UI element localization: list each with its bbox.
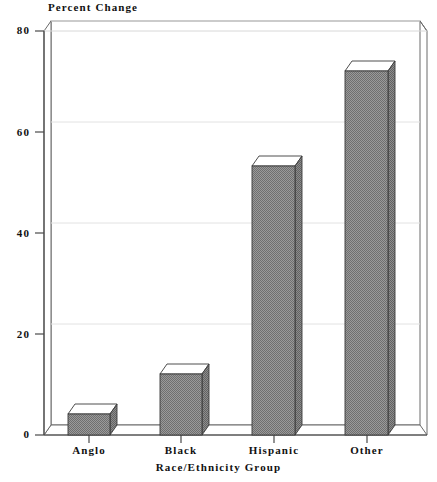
x-axis (44, 435, 427, 443)
bar-hispanic (252, 156, 302, 435)
bar-anglo (68, 404, 117, 435)
plot-area (0, 0, 437, 482)
bar-other (345, 61, 395, 435)
bar-black (160, 364, 209, 435)
y-axis (35, 31, 44, 435)
bar-chart: Percent Change 80 60 40 20 0 Anglo Black… (0, 0, 437, 482)
